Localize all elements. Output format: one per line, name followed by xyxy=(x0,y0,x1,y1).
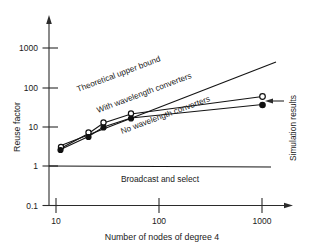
data-point-filled xyxy=(101,125,106,130)
x-axis-title: Number of nodes of degree 4 xyxy=(105,232,220,242)
data-point-open xyxy=(260,94,266,100)
curve-label-broadcast-and-select: Broadcast and select xyxy=(121,174,200,184)
y-tick-label-1: 1 xyxy=(33,161,38,171)
x-tick-label-group: 10 100 1000 xyxy=(51,216,271,226)
reuse-factor-log-log-chart: 1000 100 10 1 0.1 10 100 1000 Reuse fact… xyxy=(0,0,309,251)
y-tick-label-0.1: 0.1 xyxy=(26,201,38,211)
series-line-broadcast-and-select xyxy=(49,166,271,167)
annotation-arrowhead-icon xyxy=(265,98,273,103)
data-point-open xyxy=(128,111,133,116)
data-point-filled xyxy=(129,116,134,121)
x-tick-label-100: 100 xyxy=(152,216,166,226)
data-point-filled xyxy=(86,135,91,140)
markers-with-wavelength-converters xyxy=(58,94,265,150)
y-tick-label-1000: 1000 xyxy=(19,43,38,53)
annotation-label-simulation-results: Simulation results xyxy=(288,95,298,161)
data-point-filled xyxy=(260,102,265,107)
x-tick-label-10: 10 xyxy=(51,216,61,226)
figure-container: 1000 100 10 1 0.1 10 100 1000 Reuse fact… xyxy=(0,0,309,251)
data-point-open xyxy=(101,120,106,125)
data-point-filled xyxy=(58,148,63,153)
y-axis-arrowhead-icon xyxy=(46,15,52,24)
x-axis-arrowhead-icon xyxy=(284,203,293,209)
x-tick-label-1000: 1000 xyxy=(253,216,272,226)
series-line-with-wavelength-converters xyxy=(61,97,263,149)
y-axis-title: Reuse factor xyxy=(12,102,22,152)
y-tick-label-10: 10 xyxy=(29,122,39,132)
simulation-results-annotation: Simulation results xyxy=(265,95,298,161)
y-tick-label-100: 100 xyxy=(24,83,38,93)
